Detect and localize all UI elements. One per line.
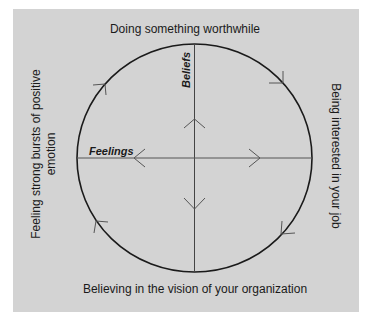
axis-label-beliefs-text: Beliefs [179,52,193,88]
label-left-line1: Feeling strong bursts of positive [29,69,44,238]
axis-label-feelings: Feelings [89,144,134,158]
label-right-text: Being interested in your job [329,83,343,228]
label-top: Doing something worthwhile [0,22,370,36]
label-bottom: Believing in the vision of your organiza… [0,282,370,296]
label-left-line2: emotion [44,69,59,238]
